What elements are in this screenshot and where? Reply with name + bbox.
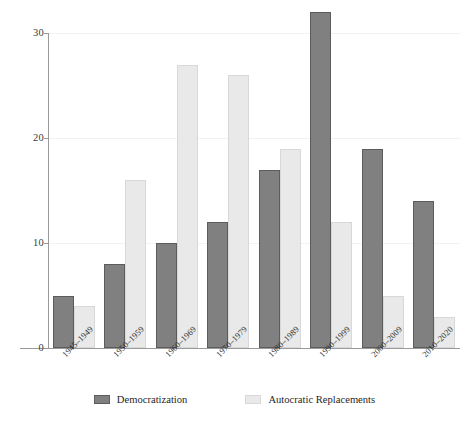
bar-democratization[interactable] [362,149,383,349]
bar-group [254,11,306,348]
chart-legend: Democratization Autocratic Replacements [0,394,469,405]
bar-democratization[interactable] [413,201,434,348]
bar-democratization[interactable] [104,264,125,348]
bar-autocratic-replacements[interactable] [228,75,249,348]
legend-label-autocratic-replacements: Autocratic Replacements [268,394,375,405]
legend-item-autocratic-replacements[interactable]: Autocratic Replacements [245,394,375,405]
bar-autocratic-replacements[interactable] [280,149,301,349]
x-axis-line [20,348,460,349]
bar-democratization[interactable] [259,170,280,349]
legend-label-democratization: Democratization [117,394,188,405]
bar-democratization[interactable] [156,243,177,348]
bar-group [306,11,358,348]
y-tick-label-20: 20 [0,133,44,144]
bar-group [100,11,152,348]
legend-item-democratization[interactable]: Democratization [94,394,188,405]
bar-autocratic-replacements[interactable] [125,180,146,348]
light-swatch [245,395,261,404]
y-tick-label-0: 0 [0,343,44,354]
bar-autocratic-replacements[interactable] [177,65,198,349]
bar-democratization[interactable] [207,222,228,348]
dark-swatch [94,395,110,404]
y-tick-label-10: 10 [0,238,44,249]
bar-group [151,11,203,348]
y-tick-mark-0 [44,348,49,349]
bar-group [203,11,255,348]
bar-group [409,11,461,348]
bar-group [357,11,409,348]
bar-group [48,11,100,348]
y-tick-label-30: 30 [0,28,44,39]
bar-democratization[interactable] [310,12,331,348]
bar-chart: 0102030 1945–19491950–19591960–19691970–… [0,0,469,423]
